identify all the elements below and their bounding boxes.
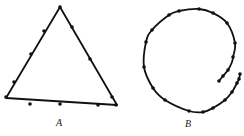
dot-marker [226, 68, 230, 72]
dot-marker [201, 110, 205, 114]
dot-marker [197, 7, 201, 11]
dot-marker [114, 103, 118, 107]
dot-marker [230, 90, 234, 94]
figure-canvas [0, 0, 244, 136]
dot-marker [163, 98, 167, 102]
dot-marker [144, 40, 148, 44]
dot-marker [4, 95, 8, 99]
dot-marker [110, 95, 114, 99]
dot-marker [12, 80, 16, 84]
dot-marker [150, 28, 154, 32]
dot-marker [233, 41, 237, 45]
dot-marker [29, 52, 33, 56]
dot-marker [211, 106, 215, 110]
dot-marker [58, 5, 62, 9]
dot-marker [151, 86, 155, 90]
label-a: A [56, 117, 62, 128]
dot-marker [231, 55, 235, 59]
dot-marker [167, 13, 171, 17]
dot-marker [225, 21, 229, 25]
dot-marker [177, 9, 181, 13]
dot-marker [142, 65, 146, 69]
spiral-outline [144, 9, 240, 112]
dot-marker [70, 25, 74, 29]
dot-marker [237, 77, 241, 81]
dot-marker [223, 98, 227, 102]
dot-marker [187, 109, 191, 113]
triangle-shape-a [4, 5, 118, 107]
dot-marker [221, 74, 225, 78]
dot-marker [28, 102, 32, 106]
dot-marker [96, 103, 100, 107]
dot-marker [235, 81, 239, 85]
triangle-outline [6, 7, 117, 105]
dot-marker [88, 57, 92, 61]
spiral-shape-b [142, 7, 242, 114]
dot-marker [217, 79, 221, 83]
dot-marker [58, 102, 62, 106]
dot-marker [42, 29, 46, 33]
dot-marker [211, 11, 215, 15]
label-b: B [185, 118, 191, 129]
dot-marker [238, 72, 242, 76]
